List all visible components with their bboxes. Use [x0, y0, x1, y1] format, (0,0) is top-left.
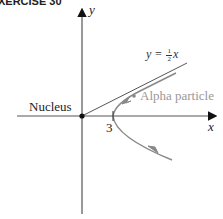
vertex-value-label: 3 — [106, 121, 113, 134]
y-axis-label: y — [89, 3, 95, 16]
asymptote-equation: y = 1 2 x — [146, 48, 178, 63]
fraction-denominator: 2 — [166, 56, 172, 63]
equation-fraction: 1 2 — [166, 48, 172, 63]
equation-rhs: x — [173, 47, 178, 61]
nucleus-dot — [79, 113, 84, 118]
alpha-particle-label: Alpha particle — [140, 89, 214, 102]
nucleus-label: Nucleus — [29, 100, 72, 113]
path-arrow-upper-icon — [122, 96, 131, 104]
x-axis-label: x — [208, 120, 214, 133]
path-dot-icon — [132, 94, 136, 98]
equation-lhs: y = — [146, 47, 162, 61]
alpha-particle-diagram: XERCISE 30 y x Nucleus 3 Alpha particle … — [0, 0, 223, 219]
